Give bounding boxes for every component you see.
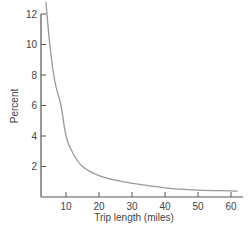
y-tick-label: 8 [31, 70, 37, 81]
y-tick-label: 10 [26, 39, 38, 50]
x-tick-label: 10 [60, 201, 72, 212]
axes [41, 14, 243, 197]
y-tick-label: 12 [26, 9, 38, 20]
x-tick-label: 60 [225, 201, 237, 212]
trip-length-chart: 24681012 102030405060 Trip length (miles… [0, 0, 250, 239]
y-tick-label: 4 [31, 131, 37, 142]
y-tick-label: 6 [31, 100, 37, 111]
y-tick-label: 2 [31, 161, 37, 172]
x-tick-label: 50 [192, 201, 204, 212]
x-tick-label: 20 [93, 201, 105, 212]
x-axis-label: Trip length (miles) [94, 212, 174, 223]
x-axis-ticks: 102030405060 [60, 192, 237, 212]
y-axis-label: Percent [9, 89, 20, 124]
x-tick-label: 30 [126, 201, 138, 212]
x-tick-label: 40 [159, 201, 171, 212]
distribution-curve [46, 2, 238, 191]
y-axis-ticks: 24681012 [26, 9, 46, 173]
